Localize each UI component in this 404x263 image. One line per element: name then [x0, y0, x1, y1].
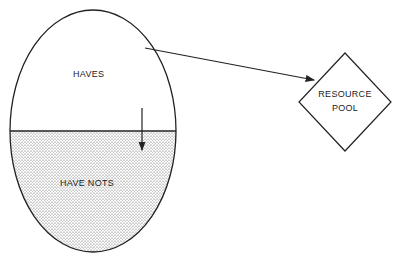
resource-pool-label-line1: RESOURCE	[305, 89, 385, 99]
have-nots-label: HAVE NOTS	[60, 178, 114, 188]
resource-pool-label-line2: POOL	[305, 103, 385, 113]
diagram-canvas	[0, 0, 404, 263]
haves-label: HAVES	[73, 69, 104, 79]
resource-pool-diamond	[299, 53, 391, 151]
flow-arrow-to-resource-pool	[145, 48, 314, 80]
